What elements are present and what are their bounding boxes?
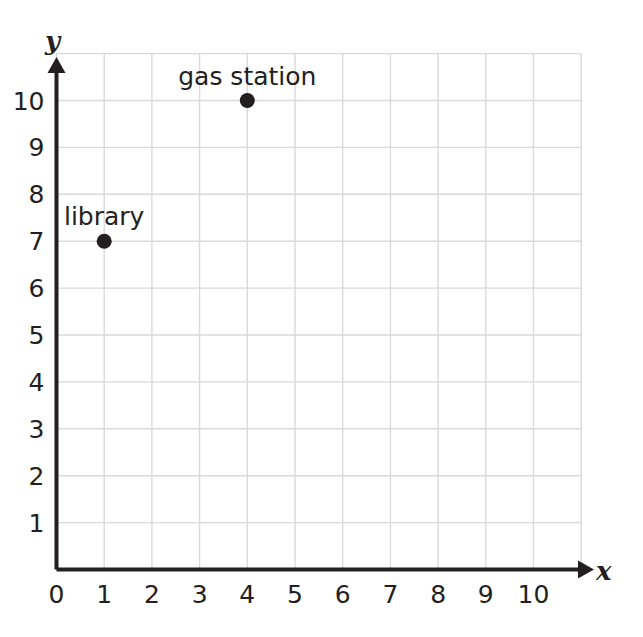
x-tick-label: 8 — [430, 582, 446, 607]
y-axis-arrowhead — [48, 57, 66, 73]
x-tick-label: 10 — [518, 582, 550, 607]
y-tick-label: 1 — [29, 510, 45, 535]
coordinate-plane-figure: 012345678910 12345678910 librarygas stat… — [0, 0, 643, 637]
data-point-library[interactable] — [97, 234, 112, 249]
y-tick-label: 3 — [29, 416, 45, 441]
y-axis-label: y — [45, 28, 60, 54]
x-tick-label: 5 — [287, 582, 303, 607]
y-tick-label: 10 — [13, 88, 45, 113]
gridlines-group — [57, 54, 582, 570]
x-tick-label: 3 — [192, 582, 208, 607]
y-tick-label: 6 — [29, 276, 45, 301]
y-tick-label: 2 — [29, 463, 45, 488]
point-label-gas-station: gas station — [178, 64, 316, 89]
x-tick-label: 6 — [335, 582, 351, 607]
data-point-gas-station[interactable] — [240, 93, 255, 108]
x-axis-label: x — [596, 558, 612, 584]
plot-canvas — [0, 0, 643, 637]
y-tick-label: 8 — [29, 182, 45, 207]
y-tick-label: 5 — [29, 323, 45, 348]
x-tick-label: 4 — [239, 582, 255, 607]
y-tick-label: 4 — [29, 369, 45, 394]
x-tick-label: 0 — [49, 582, 65, 607]
y-tick-label: 7 — [29, 229, 45, 254]
x-tick-label: 1 — [96, 582, 112, 607]
point-label-library: library — [64, 204, 144, 229]
x-tick-label: 2 — [144, 582, 160, 607]
x-tick-label: 9 — [478, 582, 494, 607]
axes-group — [48, 57, 595, 579]
x-axis-arrowhead — [578, 561, 594, 579]
x-tick-label: 7 — [382, 582, 398, 607]
y-tick-label: 9 — [29, 135, 45, 160]
